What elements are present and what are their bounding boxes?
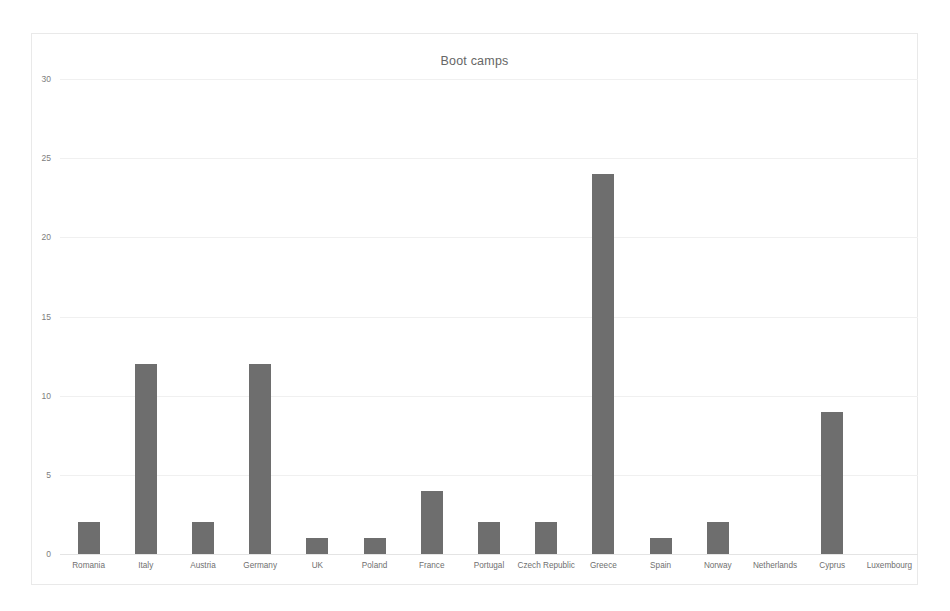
x-axis-category-label: Netherlands [753,561,797,570]
bar-series: RomaniaItalyAustriaGermanyUKPolandFrance… [60,79,918,554]
bar[interactable] [249,364,271,554]
bar-group: Romania [60,79,117,554]
bar[interactable] [78,522,100,554]
x-axis-category-label: Germany [243,561,277,570]
x-axis-category-label: Spain [650,561,671,570]
chart-title: Boot camps [32,54,917,68]
bar[interactable] [421,491,443,554]
x-axis-category-label: Czech Republic [518,561,575,570]
y-axis-tick-label: 10 [42,391,51,401]
bar-group: Spain [632,79,689,554]
x-axis-category-label: Luxembourg [867,561,913,570]
bar-group: UK [289,79,346,554]
bar-group: Greece [575,79,632,554]
gridline [60,554,918,555]
x-axis-category-label: Norway [704,561,732,570]
bar-group: Austria [174,79,231,554]
bar[interactable] [535,522,557,554]
chart-frame: Boot camps 051015202530 RomaniaItalyAust… [31,33,918,585]
bar-group: Cyprus [804,79,861,554]
x-axis-category-label: France [419,561,444,570]
bar-group: Netherlands [746,79,803,554]
bar[interactable] [478,522,500,554]
bar[interactable] [707,522,729,554]
y-axis-tick-label: 0 [46,549,51,559]
bar-group: Portugal [460,79,517,554]
y-axis-tick-label: 20 [42,232,51,242]
x-axis-category-label: Romania [72,561,105,570]
y-axis-tick-label: 5 [46,470,51,480]
bar[interactable] [650,538,672,554]
y-axis-tick-label: 25 [42,153,51,163]
bar[interactable] [364,538,386,554]
bar-group: Poland [346,79,403,554]
bar[interactable] [592,174,614,554]
bar[interactable] [192,522,214,554]
bar-group: Norway [689,79,746,554]
x-axis-category-label: Greece [590,561,617,570]
bar-group: Czech Republic [518,79,575,554]
x-axis-category-label: Cyprus [819,561,845,570]
y-axis-tick-label: 15 [42,312,51,322]
x-axis-category-label: Poland [362,561,388,570]
plot-area: 051015202530 RomaniaItalyAustriaGermanyU… [60,79,918,554]
bar[interactable] [306,538,328,554]
y-axis-tick-label: 30 [42,74,51,84]
x-axis-category-label: Italy [138,561,153,570]
bar[interactable] [135,364,157,554]
bar[interactable] [821,412,843,555]
x-axis-category-label: Austria [190,561,215,570]
bar-group: France [403,79,460,554]
x-axis-category-label: Portugal [474,561,505,570]
bar-group: Luxembourg [861,79,918,554]
bar-group: Germany [232,79,289,554]
x-axis-category-label: UK [312,561,323,570]
bar-group: Italy [117,79,174,554]
